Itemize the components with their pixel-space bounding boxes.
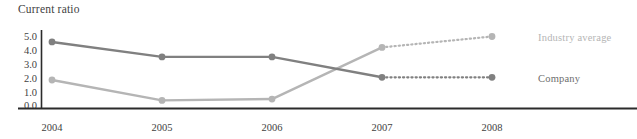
- chart-container: Current ratio 5.0 4.0 3.0 2.0 1.0 0.0 20…: [0, 0, 637, 139]
- data-point-marker: [379, 74, 386, 81]
- series-layer: [49, 33, 496, 104]
- series-company: [49, 39, 496, 81]
- data-point-marker: [49, 77, 56, 84]
- series-line-solid: [52, 47, 382, 100]
- data-point-marker: [489, 33, 496, 40]
- x-tick-label-2007: 2007: [372, 122, 393, 133]
- data-point-marker: [489, 74, 496, 81]
- data-point-marker: [159, 54, 166, 61]
- series-line-dotted: [382, 37, 492, 48]
- x-tick-label-2006: 2006: [262, 122, 283, 133]
- data-point-marker: [269, 54, 276, 61]
- data-point-marker: [269, 96, 276, 103]
- data-point-marker: [379, 44, 386, 51]
- x-tick-label-2005: 2005: [152, 122, 173, 133]
- series-label-company: Company: [538, 73, 580, 84]
- x-tick-label-2008: 2008: [482, 122, 503, 133]
- x-tick-label-2004: 2004: [42, 122, 63, 133]
- data-point-marker: [159, 97, 166, 104]
- series-industry-average: [49, 33, 496, 104]
- series-label-industry-average: Industry average: [538, 32, 611, 43]
- data-point-marker: [49, 39, 56, 46]
- plot-area: [0, 0, 637, 139]
- series-line-solid: [52, 42, 382, 77]
